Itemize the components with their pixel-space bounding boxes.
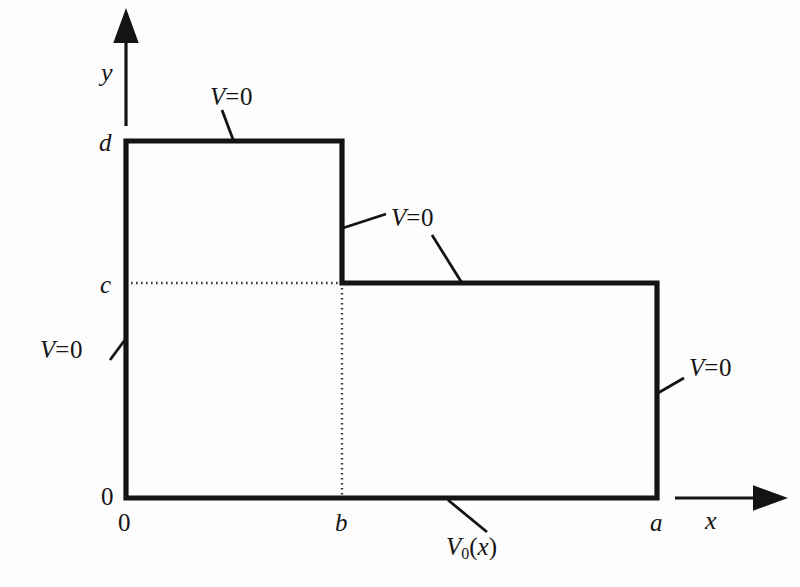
y-axis-label: y (101, 60, 113, 86)
boundary-label-left-value: 0 (70, 336, 83, 363)
boundary-label-right-equals: = (704, 354, 719, 381)
x-tick-0: 0 (118, 510, 131, 535)
leader-line-right (658, 378, 684, 393)
boundary-label-step-equals: = (406, 204, 421, 231)
diagram-canvas (0, 0, 800, 587)
l-shaped-domain-boundary (126, 141, 657, 498)
boundary-label-right: V=0 (689, 355, 731, 380)
boundary-label-step-symbol: V (391, 204, 406, 231)
leader-line-top (222, 110, 234, 142)
y-tick-d: d (99, 130, 112, 155)
x-tick-a: a (650, 510, 663, 535)
boundary-label-top-value: 0 (240, 83, 253, 110)
y-tick-c: c (100, 272, 111, 297)
y-tick-0: 0 (101, 484, 114, 509)
boundary-label-top: V=0 (210, 84, 252, 109)
boundary-label-bottom-open-paren: ( (469, 533, 477, 560)
boundary-label-bottom: V0(x) (446, 534, 497, 562)
x-tick-b: b (335, 510, 348, 535)
boundary-label-top-equals: = (225, 83, 240, 110)
boundary-label-bottom-symbol: V (446, 533, 461, 560)
boundary-label-step: V=0 (391, 205, 433, 230)
x-axis-label: x (705, 508, 717, 534)
boundary-label-right-value: 0 (719, 354, 732, 381)
boundary-label-left-symbol: V (40, 336, 55, 363)
leader-line-bottom (448, 500, 487, 532)
leader-line-step-horizontal (432, 235, 462, 283)
boundary-label-left-equals: = (55, 336, 70, 363)
boundary-label-step-value: 0 (421, 204, 434, 231)
boundary-label-right-symbol: V (689, 354, 704, 381)
figure-root: y x d c 0 0 b a V=0 V=0 V=0 V=0 V0(x) (0, 0, 800, 587)
boundary-label-top-symbol: V (210, 83, 225, 110)
boundary-label-left: V=0 (40, 337, 82, 362)
boundary-label-bottom-close-paren: ) (489, 533, 497, 560)
leader-line-step-vertical (343, 214, 386, 228)
boundary-label-bottom-arg: x (478, 533, 489, 560)
